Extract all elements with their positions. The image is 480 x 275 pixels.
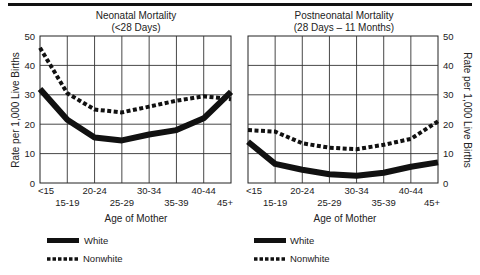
- y-tick-label: 20: [24, 119, 35, 130]
- x-tick-label: 25-29: [110, 197, 134, 208]
- x-axis-label: Age of Mother: [105, 213, 168, 224]
- chart-title: Postneonatal Mortality: [295, 10, 394, 21]
- y-tick-label: 30: [443, 89, 454, 100]
- legend-white-swatch: [254, 238, 286, 243]
- y-axis-ticks: 01020304050: [24, 31, 35, 189]
- x-tick-label: 30-34: [137, 185, 161, 196]
- x-axis-ticks: <1520-2430-3440-4415-1925-2935-3945+: [246, 185, 440, 208]
- x-tick-label: 45+: [217, 197, 234, 208]
- y-tick-label: 10: [24, 148, 35, 159]
- charts-canvas: Neonatal Mortality (<28 Days) 0102030405…: [0, 0, 480, 275]
- legend-white-swatch: [47, 238, 79, 243]
- chart-title: Neonatal Mortality: [96, 10, 177, 21]
- x-tick-label: <15: [246, 185, 262, 196]
- chart-subtitle: (<28 Days): [111, 22, 160, 33]
- x-axis-label: Age of Mother: [314, 213, 377, 224]
- series-nonwhite-line: [40, 48, 231, 113]
- x-tick-label: 25-29: [317, 197, 341, 208]
- legend: White Nonwhite: [47, 235, 123, 264]
- x-axis-ticks: <1520-2430-3440-4415-1925-2935-3945+: [38, 185, 233, 208]
- series-nonwhite-line: [248, 121, 438, 149]
- grid: [248, 36, 438, 183]
- y-tick-label: 50: [24, 31, 35, 42]
- x-tick-label: 35-39: [372, 197, 396, 208]
- y-tick-label: 40: [24, 60, 35, 71]
- y-tick-label: 40: [443, 60, 454, 71]
- series-lines: [248, 121, 438, 175]
- y-axis-label: Rate per 1,000 Live Births: [10, 52, 21, 168]
- x-tick-label: 20-24: [290, 185, 314, 196]
- legend-white-label: White: [290, 235, 314, 246]
- neonatal-chart: Neonatal Mortality (<28 Days) 0102030405…: [10, 10, 233, 264]
- legend-nonwhite-label: Nonwhite: [290, 253, 330, 264]
- x-tick-label: 15-19: [263, 197, 287, 208]
- x-tick-label: 40-44: [192, 185, 216, 196]
- x-tick-label: 20-24: [82, 185, 106, 196]
- y-axis-label: Rate per 1,000 Live Births: [462, 52, 473, 168]
- x-tick-label: <15: [38, 185, 54, 196]
- chart-subtitle: (28 Days – 11 Months): [294, 22, 394, 33]
- series-white-line: [40, 89, 231, 140]
- y-tick-label: 0: [443, 178, 448, 189]
- x-tick-label: 45+: [424, 197, 441, 208]
- x-tick-label: 30-34: [344, 185, 368, 196]
- x-tick-label: 35-39: [164, 197, 188, 208]
- y-tick-label: 50: [443, 31, 454, 42]
- series-lines: [40, 48, 231, 141]
- postneonatal-chart: Postneonatal Mortality (28 Days – 11 Mon…: [246, 10, 473, 264]
- x-tick-label: 40-44: [399, 185, 423, 196]
- y-tick-label: 10: [443, 148, 454, 159]
- y-tick-label: 30: [24, 89, 35, 100]
- y-tick-label: 20: [443, 119, 454, 130]
- legend-white-label: White: [84, 235, 108, 246]
- y-axis-ticks: 01020304050: [443, 31, 454, 189]
- plot-frame: [248, 36, 438, 183]
- y-tick-label: 0: [30, 178, 35, 189]
- x-tick-label: 15-19: [55, 197, 79, 208]
- legend: White Nonwhite: [254, 235, 330, 264]
- legend-nonwhite-label: Nonwhite: [83, 253, 123, 264]
